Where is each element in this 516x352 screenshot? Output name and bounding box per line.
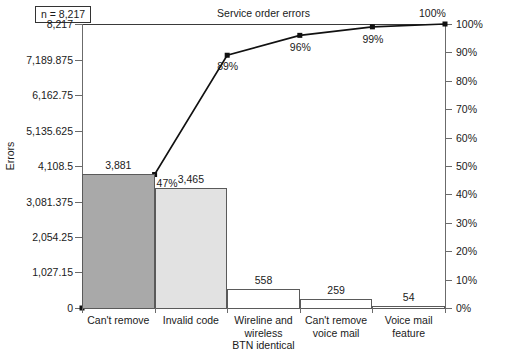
y-axis-tick-label: 7,189.875: [26, 54, 73, 65]
x-axis-category-line: Wireline and wireless: [223, 314, 304, 339]
y2-axis-tick: [445, 308, 452, 309]
y-axis-title: Errors: [4, 126, 16, 186]
x-axis-category-line: Can't remove: [78, 314, 159, 327]
x-axis-category-line: voice mail: [296, 327, 377, 340]
bar[interactable]: [372, 306, 445, 309]
x-axis-tick: [82, 308, 83, 313]
y2-axis-tick-label: 80%: [456, 75, 477, 86]
y-axis-tick-label: 3,081.375: [26, 196, 73, 207]
x-axis-category-label: Wireline and wirelessBTN identical: [223, 314, 304, 352]
x-axis-category-label: Invalid code: [151, 314, 232, 327]
y-axis-left: Errors 8,2177,189.8756,162.755,135.6254,…: [0, 0, 83, 347]
cumulative-percent-label: 96%: [290, 42, 311, 53]
y-axis-tick-label: 0: [67, 303, 73, 314]
y2-axis-tick-label: 50%: [456, 161, 477, 172]
y-axis-tick-label: 2,054.25: [32, 232, 73, 243]
chart-title: Service order errors: [82, 7, 445, 19]
y2-axis-tick: [445, 251, 452, 252]
y2-axis-tick-label: 40%: [456, 189, 477, 200]
bar-value-label: 259: [300, 285, 373, 296]
cumulative-percent-label: 100%: [419, 8, 446, 19]
y-axis-tick-label: 6,162.75: [32, 90, 73, 101]
x-axis-category-line: Can't remove: [296, 314, 377, 327]
y2-axis-tick: [445, 280, 452, 281]
bar-value-label: 558: [227, 275, 300, 286]
bar[interactable]: [227, 289, 300, 309]
y2-axis-tick-label: 100%: [456, 19, 483, 30]
y2-axis-tick: [445, 138, 452, 139]
x-axis-tick: [155, 308, 156, 313]
x-axis-tick: [300, 308, 301, 313]
y2-axis-tick-label: 0%: [456, 303, 471, 314]
y2-axis-tick: [445, 24, 452, 25]
y2-axis-tick: [445, 81, 452, 82]
bar[interactable]: [82, 174, 155, 309]
y2-axis-tick-label: 70%: [456, 104, 477, 115]
cumulative-percent-label: 99%: [362, 34, 383, 45]
y-axis-tick-label: 5,135.625: [26, 125, 73, 136]
y2-axis-tick-label: 10%: [456, 274, 477, 285]
y2-axis-tick-label: 60%: [456, 132, 477, 143]
bar[interactable]: [300, 299, 373, 309]
x-axis-category-label: Can't remove: [78, 314, 159, 327]
cumulative-percent-label: 89%: [217, 61, 238, 72]
y-axis-tick-label: 4,108.5: [38, 161, 73, 172]
y2-axis-tick: [445, 194, 452, 195]
y2-axis-tick: [445, 166, 452, 167]
x-axis-tick: [445, 308, 446, 313]
bar-value-label: 3,881: [82, 160, 155, 171]
x-axis-category-label: Voice mailfeature: [368, 314, 449, 339]
y2-axis-tick: [445, 52, 452, 53]
cumulative-percent-label: 47%: [157, 178, 178, 189]
x-axis-category-line: Invalid code: [151, 314, 232, 327]
x-axis-category-line: BTN identical: [223, 339, 304, 352]
y-axis-tick-label: 1,027.15: [32, 267, 73, 278]
y2-axis-tick-label: 30%: [456, 217, 477, 228]
y2-axis-tick-label: 90%: [456, 47, 477, 58]
bar-value-label: 54: [372, 292, 445, 303]
y2-axis-tick-label: 20%: [456, 246, 477, 257]
bar[interactable]: [155, 188, 228, 309]
y2-axis-tick: [445, 109, 452, 110]
x-axis-category-label: Can't removevoice mail: [296, 314, 377, 339]
y-axis-tick-label: 8,217: [47, 19, 73, 30]
x-axis-category-line: Voice mail: [368, 314, 449, 327]
x-axis-tick: [372, 308, 373, 313]
x-axis-category-line: feature: [368, 327, 449, 340]
x-axis-tick: [227, 308, 228, 313]
y2-axis-tick: [445, 223, 452, 224]
y-axis-right: 100%90%80%70%60%50%40%30%20%10%0%: [445, 0, 516, 347]
